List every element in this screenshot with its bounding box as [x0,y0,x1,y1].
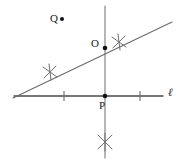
point-label-p: P [99,100,105,111]
point-P [103,94,108,99]
point-Q [60,17,64,21]
line-label-ell: ℓ [168,87,173,98]
geometry-figure: Q O P ℓ [0,0,181,163]
arc-cross-bottom [98,133,112,151]
figure-canvas [0,0,181,163]
point-O [103,46,108,51]
point-label-o: O [91,38,99,49]
point-label-q: Q [50,13,58,24]
diagonal-line [13,22,172,98]
